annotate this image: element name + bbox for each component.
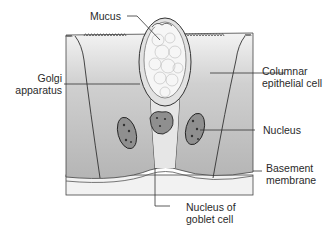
label-basement-line1: Basement bbox=[266, 162, 316, 174]
label-golgi-line1: Golgi bbox=[8, 72, 62, 84]
label-goblet-nucleus-line2: goblet cell bbox=[186, 213, 236, 225]
label-columnar-cell: Columnar epithelial cell bbox=[262, 65, 322, 89]
epithelium-diagram bbox=[0, 0, 331, 228]
label-golgi: Golgi apparatus bbox=[8, 72, 62, 96]
label-basement-membrane: Basement membrane bbox=[266, 162, 316, 186]
label-mucus: Mucus bbox=[90, 10, 121, 22]
label-columnar-line1: Columnar bbox=[262, 65, 322, 77]
goblet-nucleus bbox=[150, 112, 173, 134]
label-basement-line2: membrane bbox=[266, 174, 316, 186]
label-goblet-nucleus-line1: Nucleus of bbox=[186, 201, 236, 213]
label-columnar-line2: epithelial cell bbox=[262, 77, 322, 89]
label-nucleus: Nucleus bbox=[263, 124, 301, 136]
label-goblet-nucleus: Nucleus of goblet cell bbox=[186, 201, 236, 225]
label-golgi-line2: apparatus bbox=[8, 84, 62, 96]
